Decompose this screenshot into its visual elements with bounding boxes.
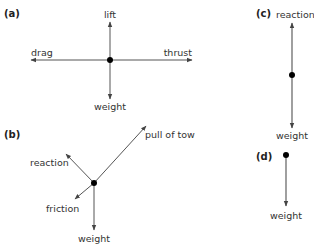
- reaction-arrow-b: [66, 154, 94, 183]
- force-diagrams: (a) lift weight drag thrust (b) pull of …: [0, 0, 314, 249]
- pull-of-tow-label: pull of tow: [145, 129, 195, 140]
- weight-label-c: weight: [276, 130, 308, 141]
- panel-label-a: (a): [4, 8, 20, 19]
- drag-label: drag: [31, 47, 53, 58]
- panel-label-c: (c): [256, 8, 271, 19]
- panel-b: (b) pull of tow reaction friction weight: [4, 126, 195, 244]
- panel-c: (c) reaction weight: [256, 8, 314, 141]
- friction-label: friction: [46, 203, 79, 214]
- body-point-b: [91, 180, 97, 186]
- reaction-label-b: reaction: [30, 157, 69, 168]
- lift-label: lift: [104, 9, 116, 20]
- pull-of-tow-arrow: [94, 126, 146, 183]
- thrust-label: thrust: [164, 47, 193, 58]
- panel-label-b: (b): [4, 129, 20, 140]
- weight-label-a: weight: [94, 101, 126, 112]
- friction-arrow: [75, 183, 94, 199]
- body-point-c: [289, 72, 295, 78]
- panel-a: (a) lift weight drag thrust: [4, 8, 192, 112]
- panel-label-d: (d): [256, 151, 272, 162]
- weight-label-b: weight: [78, 233, 110, 244]
- weight-label-d: weight: [270, 210, 302, 221]
- panel-d: (d) weight: [256, 151, 302, 221]
- body-point-a: [107, 57, 113, 63]
- reaction-label-c: reaction: [276, 9, 314, 20]
- body-point-d: [283, 152, 289, 158]
